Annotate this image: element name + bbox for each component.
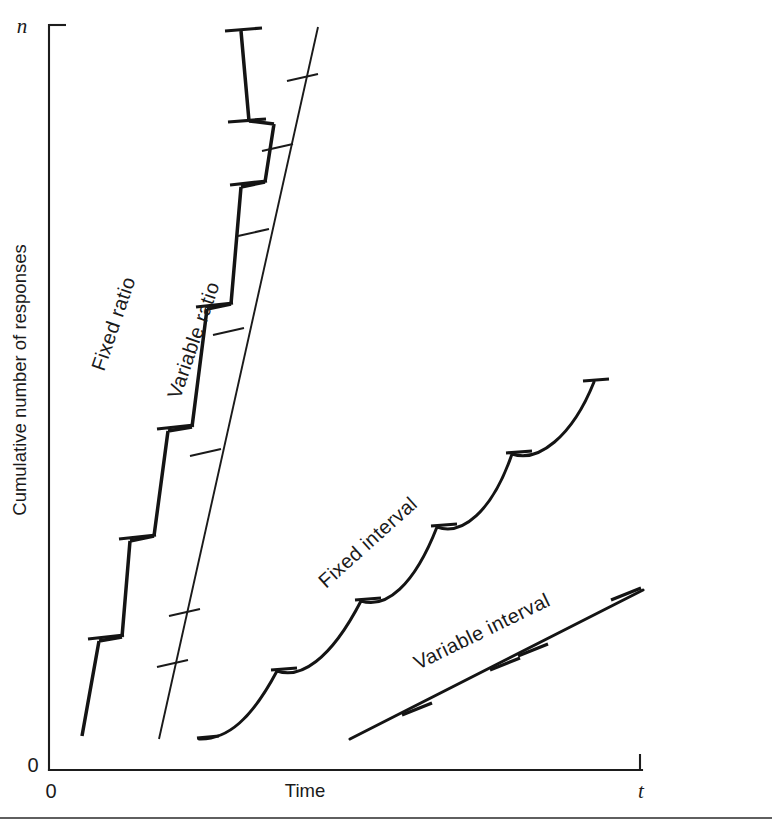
series-fixed-interval <box>197 379 609 739</box>
variable-ratio-reinforcement-mark <box>169 609 200 616</box>
curve-label-variable-ratio: Variable ratio <box>163 279 224 401</box>
y-axis-max-label: n <box>17 14 28 38</box>
curve-label-variable-interval: Variable interval <box>410 589 553 674</box>
fixed-interval-reinforcement-mark <box>431 524 457 526</box>
variable-ratio-reinforcement-mark <box>190 449 221 456</box>
variable-ratio-reinforcement-mark <box>287 74 318 81</box>
fixed-interval-reinforcement-mark <box>355 598 381 600</box>
fixed-interval-reinforcement-mark <box>506 451 532 453</box>
fixed-interval-record <box>199 382 594 739</box>
curve-label-fixed-ratio: Fixed ratio <box>87 274 140 374</box>
curve-label-fixed-interval: Fixed interval <box>314 492 421 592</box>
x-axis-max-label: t <box>638 779 645 803</box>
chart-canvas: Fixed ratio Variable ratio Fixed interva… <box>0 0 772 831</box>
curve-label-group: Fixed ratio Variable ratio Fixed interva… <box>87 274 553 674</box>
y-axis-origin-label: 0 <box>27 754 38 776</box>
y-axis-title: Cumulative number of responses <box>9 244 30 515</box>
variable-ratio-reinforcement-mark <box>157 660 188 667</box>
fixed-interval-reinforcement-mark <box>271 668 297 670</box>
fixed-interval-reinforcement-mark <box>197 736 219 738</box>
variable-ratio-reinforcement-mark <box>213 328 244 335</box>
axis-text-group: n 0 0 Time t Cumulative number of respon… <box>9 14 645 803</box>
variable-ratio-reinforcement-mark <box>262 144 293 151</box>
x-axis-origin-label: 0 <box>45 780 56 802</box>
fixed-ratio-reinforcement-mark <box>225 28 262 31</box>
cumulative-record-figure: Fixed ratio Variable ratio Fixed interva… <box>0 0 772 831</box>
x-axis-title: Time <box>285 780 325 801</box>
axis-group <box>49 25 642 770</box>
fixed-interval-reinforcement-mark <box>583 379 609 381</box>
variable-ratio-reinforcement-mark <box>238 229 269 236</box>
